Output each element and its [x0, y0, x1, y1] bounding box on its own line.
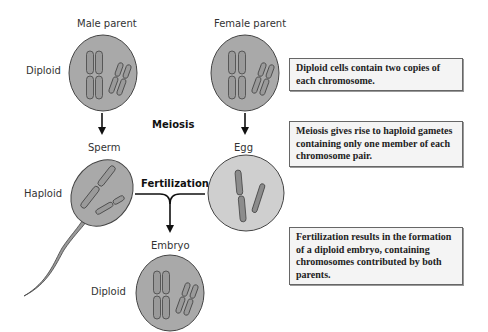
male-parent-label: Male parent [77, 18, 137, 29]
female-parent-label: Female parent [214, 18, 286, 29]
embryo-cell [136, 255, 204, 331]
note-meiosis-text: Meiosis gives rise to haploid gametes co… [296, 125, 452, 161]
note-diploid-text: Diploid cells contain two copies of each… [296, 62, 440, 86]
egg-cell [208, 155, 284, 231]
diploid-label-top: Diploid [26, 65, 61, 76]
sperm-label: Sperm [88, 142, 121, 153]
haploid-label: Haploid [24, 188, 62, 199]
male-meiosis-arrow [98, 113, 106, 135]
diploid-label-bottom: Diploid [91, 286, 126, 297]
egg-label: Egg [234, 142, 253, 153]
note-fertilization: Fertilization results in the formation o… [289, 227, 463, 285]
female-meiosis-arrow [241, 113, 249, 135]
sperm-cell [24, 148, 146, 296]
meiosis-label: Meiosis [152, 119, 194, 130]
female-parent-cell [211, 35, 279, 111]
note-diploid: Diploid cells contain two copies of each… [289, 58, 463, 91]
fertilization-arrow [135, 194, 205, 233]
note-meiosis: Meiosis gives rise to haploid gametes co… [289, 121, 463, 167]
fertilization-label: Fertilization [141, 178, 209, 189]
note-fertilization-text: Fertilization results in the formation o… [296, 231, 451, 280]
embryo-label: Embryo [151, 240, 190, 251]
male-parent-cell [69, 35, 137, 111]
